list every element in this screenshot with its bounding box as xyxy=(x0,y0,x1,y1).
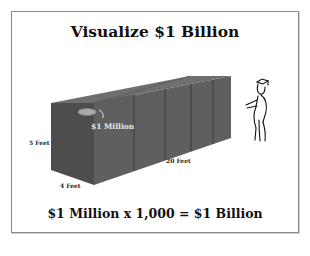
graduate-figure-icon xyxy=(246,79,268,141)
million-label: $1 Million xyxy=(91,122,135,131)
million-cube-icon xyxy=(78,109,96,116)
length-label: 20 Feet xyxy=(166,157,191,164)
billion-equation: $1 Million x 1,000 = $1 Billion xyxy=(0,206,310,221)
height-label: 5 Feet xyxy=(29,139,50,146)
width-label: 4 Feet xyxy=(60,182,81,189)
money-block xyxy=(51,76,231,185)
